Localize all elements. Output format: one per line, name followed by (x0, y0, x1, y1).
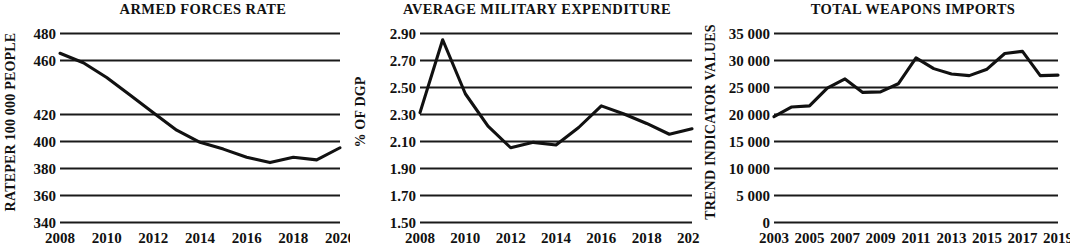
charts-row: ARMED FORCES RATE RATEPER 100 000 PEOPLE… (0, 0, 1070, 249)
y-axis-tick-label: 2.90 (390, 26, 416, 42)
y-axis-tick-label: 35 000 (729, 26, 770, 42)
y-axis-tick-label: 480 (34, 26, 57, 42)
x-axis-tick-label: 2016 (232, 230, 263, 246)
plot-area-1: 4804604204003803603402008201020122014201… (0, 0, 350, 249)
y-axis-tick-label: 15 000 (729, 134, 770, 150)
x-axis-tick-label: 2019 (1043, 230, 1070, 246)
x-axis-tick-label: 2012 (496, 230, 526, 246)
x-axis-tick-label: 2020 (677, 230, 700, 246)
x-axis-tick-label: 2020 (325, 230, 350, 246)
chart-svg-2: 2.902.702.502.302.101.901.701.5020082010… (350, 0, 700, 249)
x-axis-tick-label: 2011 (901, 230, 930, 246)
chart-panel-armed-forces-rate: ARMED FORCES RATE RATEPER 100 000 PEOPLE… (0, 0, 350, 249)
x-axis-tick-label: 2018 (278, 230, 308, 246)
chart-svg-1: 4804604204003803603402008201020122014201… (0, 0, 350, 249)
x-axis-tick-label: 2010 (92, 230, 122, 246)
y-axis-tick-label: 380 (34, 161, 57, 177)
x-axis-tick-label: 2008 (405, 230, 435, 246)
y-axis-tick-label: 2.70 (390, 53, 416, 69)
x-axis-tick-label: 2009 (866, 230, 896, 246)
x-axis-tick-label: 2014 (541, 230, 572, 246)
y-axis-tick-label: 2.30 (390, 107, 416, 123)
y-axis-tick-label: 10 000 (729, 161, 770, 177)
x-axis-tick-label: 2008 (45, 230, 75, 246)
y-axis-tick-label: 1.90 (390, 161, 416, 177)
x-axis-tick-label: 2013 (937, 230, 967, 246)
x-axis-tick-label: 2014 (185, 230, 216, 246)
x-axis-tick-label: 2017 (1008, 230, 1039, 246)
y-axis-tick-label: 2.50 (390, 80, 416, 96)
chart-svg-3: 35 00030 00025 00020 00015 00010 0005 00… (700, 0, 1070, 249)
y-axis-tick-label: 360 (34, 188, 57, 204)
x-axis-tick-label: 2007 (830, 230, 861, 246)
y-axis-tick-label: 1.50 (390, 215, 416, 231)
plot-area-2: 2.902.702.502.302.101.901.701.5020082010… (350, 0, 700, 249)
y-axis-tick-label: 460 (34, 53, 57, 69)
x-axis-tick-label: 2005 (795, 230, 825, 246)
y-axis-tick-label: 5 000 (736, 188, 770, 204)
plot-area-3: 35 00030 00025 00020 00015 00010 0005 00… (700, 0, 1070, 249)
data-series-line (420, 40, 692, 148)
chart-panel-total-weapons-imports: TOTAL WEAPONS IMPORTS TREND INDICATOR VA… (700, 0, 1070, 249)
y-axis-tick-label: 25 000 (729, 80, 770, 96)
x-axis-tick-label: 2012 (138, 230, 168, 246)
x-axis-tick-label: 2015 (972, 230, 1002, 246)
x-axis-tick-label: 2016 (586, 230, 617, 246)
x-axis-tick-label: 2003 (759, 230, 789, 246)
y-axis-tick-label: 420 (34, 107, 57, 123)
y-axis-tick-label: 1.70 (390, 188, 416, 204)
y-axis-tick-label: 0 (763, 215, 771, 231)
y-axis-tick-label: 400 (34, 134, 57, 150)
chart-panel-average-military-expenditure: AVERAGE MILITARY EXPENDITURE % OF DGP 2.… (350, 0, 700, 249)
x-axis-tick-label: 2018 (632, 230, 662, 246)
y-axis-tick-label: 340 (34, 215, 57, 231)
y-axis-tick-label: 20 000 (729, 107, 770, 123)
data-series-line (60, 53, 340, 162)
x-axis-tick-label: 2010 (450, 230, 480, 246)
y-axis-tick-label: 2.10 (390, 134, 416, 150)
y-axis-tick-label: 30 000 (729, 53, 770, 69)
